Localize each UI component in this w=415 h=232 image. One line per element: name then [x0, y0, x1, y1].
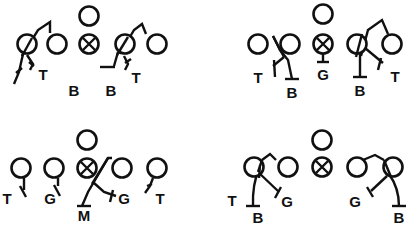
offensive-player — [383, 35, 402, 54]
defender-label-g: G — [349, 193, 361, 210]
defender-label-t: T — [253, 69, 262, 86]
offensive-player — [48, 35, 67, 54]
defender-label-t: T — [390, 68, 399, 85]
football-blocking-diagrams: T B B T T B G B — [0, 0, 415, 232]
route-line — [389, 174, 399, 206]
defender-label-b: B — [106, 82, 117, 99]
quarterback — [314, 5, 333, 24]
offensive-player — [113, 159, 132, 178]
defender-label-g: G — [317, 66, 329, 83]
defender-label-b: B — [253, 209, 264, 226]
block-mark — [110, 190, 113, 202]
defender-label-t: T — [2, 190, 11, 207]
defender-label-g: G — [281, 193, 293, 210]
quarterback — [80, 7, 99, 26]
diagram-bottom-left: T G M G T — [2, 131, 166, 225]
offensive-player — [148, 35, 167, 54]
block-mark — [274, 60, 275, 77]
defender-label-b: B — [394, 209, 405, 226]
offensive-player — [148, 159, 167, 178]
center-x-icon — [314, 35, 333, 54]
defender-label-t: T — [227, 192, 236, 209]
offensive-player — [12, 159, 31, 178]
offensive-player — [249, 35, 268, 54]
offensive-player — [281, 35, 300, 54]
defender-label-g: G — [118, 190, 130, 207]
center-x-icon — [80, 35, 99, 54]
offensive-player — [18, 35, 37, 54]
center-x-icon — [78, 159, 97, 178]
diagram-bottom-right: T B G G B — [227, 131, 406, 227]
diagram-top-left: T B B T — [14, 7, 167, 100]
route-line — [371, 176, 387, 191]
route-line — [262, 154, 276, 160]
defender-label-m: M — [78, 207, 91, 224]
diagram-top-right: T B G B T — [249, 5, 402, 102]
defender-label-t: T — [155, 190, 164, 207]
defender-label-t: T — [38, 66, 47, 83]
route-line — [363, 155, 384, 160]
defender-label-t: T — [131, 69, 140, 86]
quarterback — [78, 131, 97, 150]
offensive-player — [279, 158, 298, 177]
offensive-player — [348, 158, 367, 177]
defender-label-b: B — [287, 84, 298, 101]
offensive-player — [45, 159, 64, 178]
defender-label-b: B — [69, 82, 80, 99]
center-x-icon — [313, 158, 332, 177]
defender-label-g: G — [44, 190, 56, 207]
defender-label-b: B — [355, 82, 366, 99]
quarterback — [313, 131, 332, 150]
